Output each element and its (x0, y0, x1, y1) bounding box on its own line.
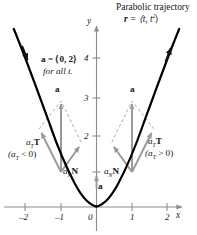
vector-a-label-origin: a (98, 182, 103, 191)
tangential-label-left: aTT (26, 138, 40, 147)
parabolic-trajectory-figure: Parabolic trajectory r = ⟨t, t2⟩ a = ⟨0,… (0, 0, 197, 235)
x-tick-label--2: –2 (19, 213, 28, 222)
x-tick-label-1: 1 (130, 213, 135, 222)
y-axis-label: y (87, 17, 91, 26)
equation-body: = ⟨t, t (128, 14, 153, 24)
axes-group (4, 26, 182, 231)
normal-label-right: aNN (104, 167, 119, 176)
y-tick-label-3: 3 (84, 94, 89, 103)
normal-label-left: aNN (63, 167, 78, 176)
vector-a-label-right: a (130, 85, 135, 94)
acceleration-value-line2: for all t. (43, 67, 73, 76)
tangential-condition-right: (aT > 0) (145, 149, 173, 158)
y-tick-label-2: 2 (84, 132, 89, 141)
figure-equation: r = ⟨t, t2⟩ (124, 15, 159, 24)
curve-direction-arrow-right (166, 48, 172, 62)
tangential-label-right: aTT (148, 137, 162, 146)
x-tick-label-0: 0 (88, 213, 93, 222)
vector-at-left (42, 133, 62, 172)
y-tick-label-4: 4 (84, 54, 89, 63)
equation-close: ⟩ (155, 14, 159, 24)
figure-title: Parabolic trajectory (116, 3, 190, 12)
x-axis-label: x (176, 211, 180, 220)
figure-canvas (0, 0, 197, 235)
x-tick-label--1: –1 (55, 213, 64, 222)
acceleration-value-line1: a = ⟨0, 2⟩ (41, 55, 77, 64)
tangential-condition-left: (aT < 0) (8, 150, 36, 159)
x-tick-label-2: 2 (165, 213, 170, 222)
vector-a-label-left: a (55, 85, 60, 94)
